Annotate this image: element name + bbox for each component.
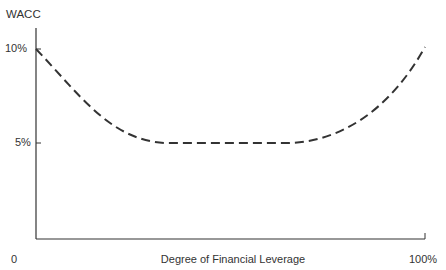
y-tick-label-5: 5% — [15, 136, 31, 148]
x-axis-label: Degree of Financial Leverage — [0, 253, 446, 265]
y-tick-label-10: 10% — [5, 42, 27, 54]
wacc-curve — [36, 47, 425, 143]
y-axis-label: WACC — [6, 8, 41, 20]
x-tick-label-100: 100% — [409, 253, 437, 265]
chart-canvas — [0, 0, 446, 270]
